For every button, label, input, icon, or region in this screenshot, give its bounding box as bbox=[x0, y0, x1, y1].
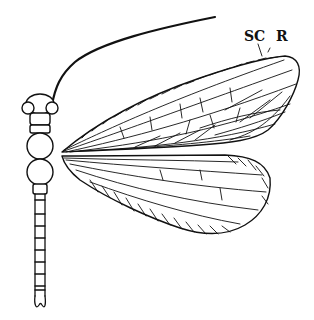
figure: SC R bbox=[0, 0, 314, 320]
label-r: R bbox=[276, 28, 288, 44]
hindwing bbox=[62, 155, 270, 233]
insect-illustration bbox=[0, 0, 314, 320]
thorax bbox=[27, 113, 53, 194]
antenna bbox=[52, 17, 215, 105]
label-sc: SC bbox=[244, 28, 265, 44]
abdomen bbox=[35, 194, 46, 307]
forewing bbox=[62, 56, 299, 152]
